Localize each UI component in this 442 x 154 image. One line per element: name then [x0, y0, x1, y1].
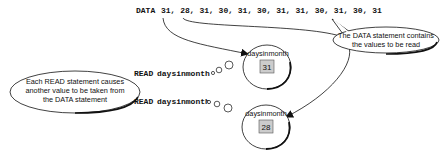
data-callout-line-2: the values to be read	[352, 40, 420, 49]
read-variable-1: daysinmonth	[157, 69, 210, 78]
thought-dot-medium-icon	[214, 101, 220, 107]
variable-bubble-2: daysinmonth 28	[242, 105, 290, 149]
data-keyword: DATA	[136, 6, 155, 15]
read-variable-2: daysinmonth	[157, 97, 210, 106]
data-callout-line-1: The DATA statement contains	[338, 31, 434, 40]
thought-dot-large-icon	[225, 61, 233, 69]
read-callout-line-2: another value to be taken from	[26, 86, 125, 95]
value-2: 28	[262, 123, 271, 132]
read-callout-line-3: the DATA statement	[43, 95, 107, 104]
data-callout: The DATA statement contains the values t…	[332, 19, 439, 54]
thought-dot-small-icon	[207, 100, 210, 103]
data-values: 31, 28, 31, 30, 31, 30, 31, 31, 30, 31, …	[161, 6, 382, 15]
value-1: 31	[263, 63, 272, 72]
read-data-diagram: DATA 31, 28, 31, 30, 31, 30, 31, 31, 30,…	[0, 0, 442, 154]
variable-bubble-1: daysinmonth 31	[243, 45, 291, 89]
variable-name-2: daysinmonth	[245, 109, 286, 118]
thought-dot-large-icon	[224, 104, 232, 112]
thought-dot-small-icon	[211, 71, 214, 74]
thought-dot-medium-icon	[216, 67, 222, 73]
variable-name-1: daysinmonth	[247, 49, 288, 58]
read-keyword-2: READ	[134, 97, 153, 106]
read-callout: Each READ statement causes another value…	[10, 71, 140, 113]
read-callout-line-1: Each READ statement causes	[26, 77, 124, 86]
read-keyword-1: READ	[134, 69, 153, 78]
